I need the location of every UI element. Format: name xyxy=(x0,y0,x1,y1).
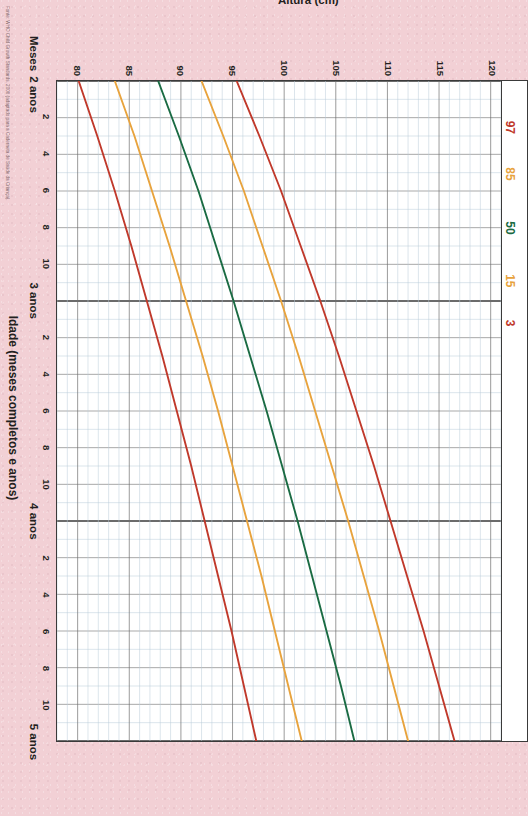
y-tick-95: 95 xyxy=(227,54,238,76)
percentile-label-3: 3 xyxy=(504,320,516,327)
y-tick-100: 100 xyxy=(279,54,290,76)
x-tick-month-46: 10 xyxy=(41,479,52,490)
x-tick-month-32: 8 xyxy=(41,224,52,229)
x-tick-month-52: 4 xyxy=(41,592,52,597)
x-tick-year-2: 2 anos xyxy=(28,76,40,112)
x-tick-month-50: 2 xyxy=(41,555,52,560)
x-tick-month-44: 8 xyxy=(41,445,52,450)
x-tick-month-58: 10 xyxy=(41,700,52,711)
x-tick-month-56: 8 xyxy=(41,666,52,671)
y-tick-110: 110 xyxy=(382,54,393,76)
y-tick-80: 80 xyxy=(71,54,82,76)
y-tick-90: 90 xyxy=(175,54,186,76)
percentile-label-15: 15 xyxy=(504,274,516,287)
percentile-curve-97 xyxy=(237,81,455,741)
source-caption: Fonte: WHO Child Growth Standards, 2006 … xyxy=(5,6,10,201)
x-tick-month-54: 6 xyxy=(41,629,52,634)
percentile-label-85: 85 xyxy=(504,167,516,180)
y-tick-105: 105 xyxy=(331,54,342,76)
y-tick-115: 115 xyxy=(434,54,445,76)
x-tick-year-4: 4 anos xyxy=(28,503,40,539)
percentile-curve-85 xyxy=(202,81,409,741)
x-tick-year-3: 3 anos xyxy=(28,282,40,318)
x-tick-month-42: 6 xyxy=(41,408,52,413)
y-tick-85: 85 xyxy=(123,54,134,76)
months-axis-label: Meses xyxy=(28,36,40,71)
percentile-curves-layer xyxy=(57,81,501,741)
x-tick-month-30: 6 xyxy=(41,188,52,193)
percentile-curve-15 xyxy=(115,81,302,741)
x-tick-month-34: 10 xyxy=(41,259,52,270)
percentile-curve-3 xyxy=(79,81,257,741)
percentile-curve-50 xyxy=(158,81,354,741)
x-tick-month-26: 2 xyxy=(41,114,52,119)
x-tick-year-5: 5 anos xyxy=(28,724,40,760)
x-tick-month-38: 2 xyxy=(41,335,52,340)
chart-plot-area xyxy=(56,80,502,742)
chart-stage: 12011511010510095908580 978550153 246810… xyxy=(0,0,528,816)
percentile-label-50: 50 xyxy=(504,221,516,234)
percentile-label-97: 97 xyxy=(504,121,516,134)
y-tick-120: 120 xyxy=(486,54,497,76)
x-tick-month-28: 4 xyxy=(41,151,52,156)
percentile-legend-strip: 978550153 xyxy=(501,80,528,742)
x-tick-month-40: 4 xyxy=(41,372,52,377)
y-axis-title: Altura (cm) xyxy=(278,0,339,6)
